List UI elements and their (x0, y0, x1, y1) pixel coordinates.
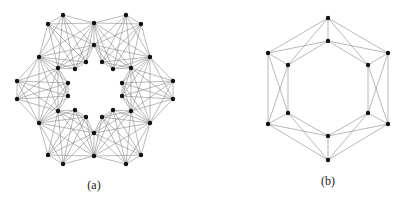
graph-edge (94, 23, 150, 57)
graph-node (92, 131, 96, 135)
graph-node (100, 60, 104, 64)
graph-edge (48, 111, 58, 155)
graph-node (386, 122, 390, 126)
graph-edge (131, 68, 150, 123)
graph-node (120, 81, 124, 85)
graph-node (66, 81, 70, 85)
graph-edge (94, 15, 126, 45)
graph-edge (126, 155, 141, 164)
graph-edge (63, 156, 94, 164)
graph-edge (39, 23, 94, 57)
graph-node (92, 21, 96, 25)
graph-node (124, 162, 128, 166)
graph-node (111, 67, 115, 71)
graph-edge (63, 15, 94, 45)
graph-edge (328, 41, 388, 53)
graph-edge (102, 117, 126, 164)
graph-node (46, 153, 50, 157)
graph-node (129, 66, 133, 70)
graph-edge (75, 110, 94, 133)
graph-node (56, 66, 60, 70)
graph-edge (48, 155, 63, 164)
graph-edge (94, 111, 131, 156)
graph-edge (94, 23, 102, 62)
graph-node (15, 97, 19, 101)
graph-edge (94, 15, 126, 23)
graph-edge (268, 53, 288, 113)
graph-node (139, 22, 143, 26)
graph-edge (122, 81, 173, 83)
graph-a (15, 13, 175, 166)
graph-edge (131, 57, 150, 111)
graph-edge (94, 23, 131, 68)
graph-edge (39, 57, 58, 111)
graph-node (326, 39, 330, 43)
graph-edge (268, 65, 288, 124)
graph-node (73, 67, 77, 71)
graph-edge (288, 113, 328, 160)
graph-edge (94, 156, 126, 164)
graph-node (286, 63, 290, 67)
graph-node (326, 16, 330, 20)
graph-edge (63, 15, 94, 23)
graph-edge (368, 65, 388, 124)
graph-node (37, 121, 41, 125)
graph-edge (328, 18, 368, 65)
graph-edge (268, 18, 328, 53)
graph-edge (288, 41, 328, 65)
graph-edge (268, 124, 328, 160)
graph-edge (131, 68, 173, 99)
graph-edge (39, 68, 58, 123)
graph-canvas (0, 0, 401, 202)
caption-b: (b) (321, 174, 335, 189)
graph-node (73, 108, 77, 112)
graph-node (139, 153, 143, 157)
graph-edge (94, 133, 126, 164)
graph-node (386, 51, 390, 55)
graph-edge (113, 24, 141, 69)
graph-edge (328, 41, 368, 65)
graph-edge (368, 53, 388, 65)
graph-node (92, 154, 96, 158)
graph-edge (288, 113, 328, 136)
graph-node (84, 115, 88, 119)
graph-edge (58, 96, 68, 111)
graph-node (171, 79, 175, 83)
graph-node (129, 109, 133, 113)
graph-node (148, 55, 152, 59)
graph-node (100, 115, 104, 119)
graph-node (266, 51, 270, 55)
graph-b (266, 16, 390, 162)
graph-node (111, 108, 115, 112)
graph-edge (368, 53, 388, 113)
graph-node (266, 122, 270, 126)
graph-node (61, 13, 65, 17)
graph-node (326, 134, 330, 138)
graph-edge (102, 15, 126, 62)
graph-edge (328, 124, 388, 160)
graph-edge (102, 117, 150, 123)
graph-edge (268, 41, 328, 53)
graph-edge (122, 96, 150, 123)
graph-node (366, 63, 370, 67)
graph-node (84, 60, 88, 64)
graph-node (124, 13, 128, 17)
graph-node (66, 94, 70, 98)
graph-edge (86, 23, 94, 62)
graph-edge (94, 110, 113, 133)
graph-node (366, 111, 370, 115)
graph-edge (268, 124, 328, 136)
graph-edge (63, 133, 94, 164)
graph-node (120, 94, 124, 98)
graph-node (15, 79, 19, 83)
graph-edge (328, 113, 368, 136)
graph-edge (58, 111, 94, 156)
graph-edge (268, 53, 288, 65)
graph-node (92, 43, 96, 47)
graph-node (326, 158, 330, 162)
graph-node (171, 97, 175, 101)
graph-node (148, 121, 152, 125)
graph-edge (58, 23, 94, 68)
graph-edge (17, 81, 68, 83)
graph-node (286, 111, 290, 115)
